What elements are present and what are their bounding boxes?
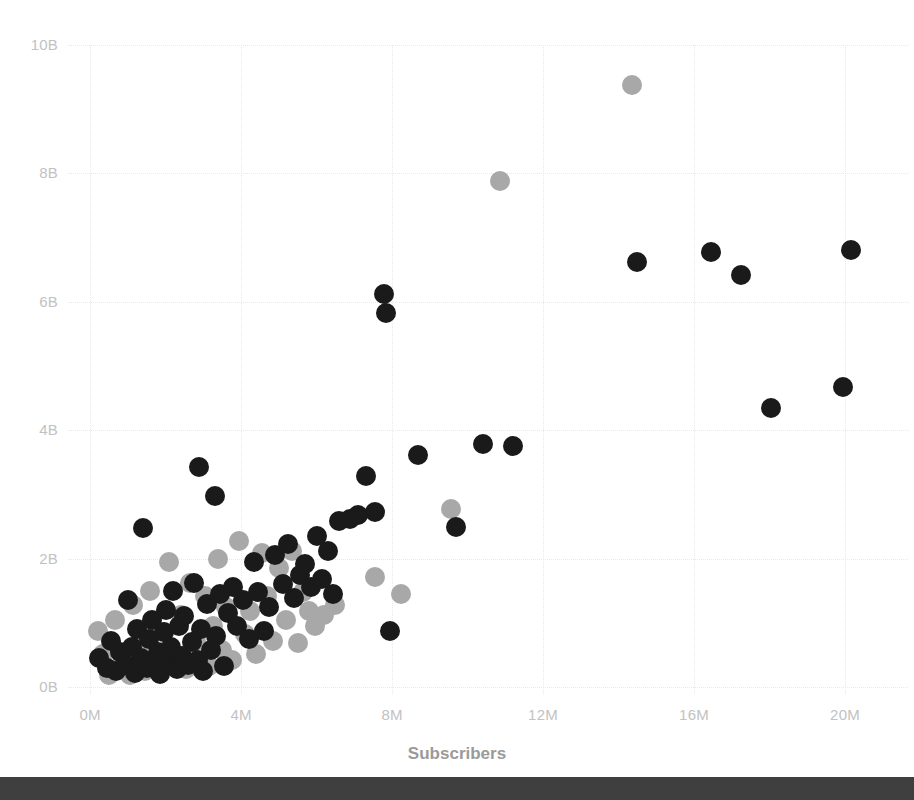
- x-axis-tick-label: 16M: [654, 706, 734, 723]
- data-point-dark: [295, 554, 315, 574]
- data-point-light: [229, 531, 249, 551]
- data-point-dark: [365, 502, 385, 522]
- data-point-dark: [376, 303, 396, 323]
- gridline-horizontal: [68, 559, 908, 560]
- y-axis-tick-label: 4B: [0, 421, 58, 438]
- data-point-light: [365, 567, 385, 587]
- data-point-dark: [731, 265, 751, 285]
- data-point-dark: [205, 486, 225, 506]
- data-point-dark: [133, 518, 153, 538]
- gridline-horizontal: [68, 173, 908, 174]
- data-point-dark: [318, 541, 338, 561]
- data-point-dark: [118, 590, 138, 610]
- scatter-chart: 0B2B4B6B8B10B0M4M8M12M16M20M Subscribers: [0, 0, 914, 800]
- data-point-light: [276, 610, 296, 630]
- data-point-dark: [833, 377, 853, 397]
- data-point-light: [140, 581, 160, 601]
- x-axis-tick-label: 4M: [201, 706, 281, 723]
- data-point-dark: [503, 436, 523, 456]
- gridline-horizontal: [68, 687, 908, 688]
- x-axis-tick-label: 8M: [352, 706, 432, 723]
- gridline-vertical: [90, 45, 91, 694]
- x-axis-title: Subscribers: [0, 744, 914, 764]
- data-point-dark: [761, 398, 781, 418]
- y-axis-tick-label: 8B: [0, 164, 58, 181]
- x-axis-tick-label: 12M: [503, 706, 583, 723]
- plot-area: 0B2B4B6B8B10B0M4M8M12M16M20M: [0, 0, 914, 780]
- gridline-horizontal: [68, 430, 908, 431]
- y-axis-tick-label: 6B: [0, 293, 58, 310]
- bottom-bar: [0, 777, 914, 800]
- data-point-dark: [189, 457, 209, 477]
- gridline-horizontal: [68, 45, 908, 46]
- data-point-dark: [214, 656, 234, 676]
- data-point-dark: [206, 626, 226, 646]
- data-point-light: [441, 499, 461, 519]
- data-point-light: [105, 610, 125, 630]
- data-point-dark: [244, 552, 264, 572]
- gridline-vertical: [694, 45, 695, 694]
- data-point-light: [490, 171, 510, 191]
- x-axis-tick-label: 20M: [805, 706, 885, 723]
- data-point-light: [208, 549, 228, 569]
- data-point-dark: [701, 242, 721, 262]
- data-point-dark: [473, 434, 493, 454]
- data-point-dark: [356, 466, 376, 486]
- y-axis-tick-label: 0B: [0, 678, 58, 695]
- x-axis-tick-label: 0M: [50, 706, 130, 723]
- gridline-vertical: [845, 45, 846, 694]
- y-axis-tick-label: 10B: [0, 36, 58, 53]
- data-point-dark: [184, 573, 204, 593]
- data-point-dark: [193, 661, 213, 681]
- data-point-dark: [380, 621, 400, 641]
- gridline-vertical: [543, 45, 544, 694]
- data-point-light: [159, 552, 179, 572]
- data-point-light: [288, 633, 308, 653]
- data-point-dark: [408, 445, 428, 465]
- data-point-dark: [841, 240, 861, 260]
- y-axis-tick-label: 2B: [0, 550, 58, 567]
- data-point-dark: [163, 581, 183, 601]
- data-point-dark: [259, 597, 279, 617]
- data-point-dark: [446, 517, 466, 537]
- gridline-horizontal: [68, 302, 908, 303]
- data-point-dark: [254, 621, 274, 641]
- data-point-light: [391, 584, 411, 604]
- data-point-light: [622, 75, 642, 95]
- data-point-dark: [627, 252, 647, 272]
